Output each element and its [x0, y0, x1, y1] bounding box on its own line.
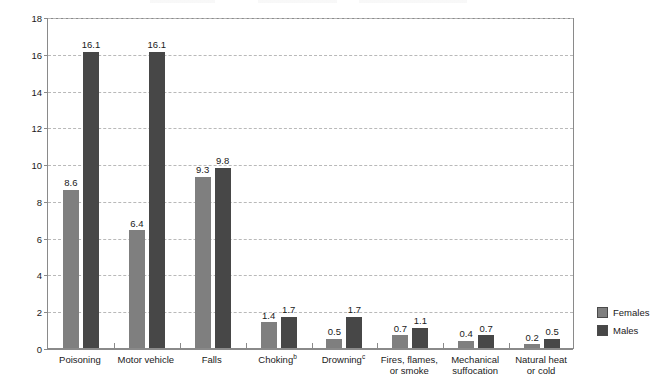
footnote-marker: c [362, 353, 365, 360]
bar-value-label: 0.5 [545, 327, 558, 337]
bar-value-label: 16.1 [148, 40, 167, 50]
legend-item-females[interactable]: Females [597, 303, 667, 321]
bar-males[interactable]: 1.7 [346, 317, 362, 348]
x-axis-label-line: Drowningc [311, 354, 377, 365]
bar-males[interactable]: 0.5 [544, 339, 560, 348]
y-tick-mark [44, 349, 48, 350]
legend-label: Females [613, 307, 649, 318]
bar-group: 0.40.7 [443, 19, 509, 348]
x-tick-mark [180, 343, 181, 348]
x-axis-label-line: Falls [179, 354, 245, 365]
bar-pair: 0.40.7 [443, 19, 509, 348]
bar-pair: 0.71.1 [377, 19, 443, 348]
bar-females[interactable]: 9.3 [195, 177, 211, 348]
bar-value-label: 16.1 [82, 40, 101, 50]
bar-group: 1.41.7 [246, 19, 312, 348]
y-tick-label: 10 [2, 161, 42, 171]
y-tick-label: 6 [2, 235, 42, 245]
x-tick-mark [246, 343, 247, 348]
x-axis-label-line: or smoke [376, 365, 442, 376]
x-tick-mark [443, 343, 444, 348]
bar-pair: 8.616.1 [48, 19, 114, 348]
y-tick-label: 12 [2, 125, 42, 135]
bar-value-label: 0.7 [394, 324, 407, 334]
bar-males[interactable]: 1.7 [281, 317, 297, 348]
bar-males[interactable]: 16.1 [149, 52, 165, 348]
bar-value-label: 1.1 [414, 316, 427, 326]
plot-area: 0246810121416188.616.16.416.19.39.81.41.… [47, 18, 574, 349]
bar-males[interactable]: 16.1 [83, 52, 99, 348]
y-tick-label: 14 [2, 88, 42, 98]
y-tick-label: 8 [2, 198, 42, 208]
bar-group: 0.71.1 [377, 19, 443, 348]
x-axis-label: Poisoning [47, 354, 113, 365]
bar-pair: 0.20.5 [509, 19, 575, 348]
bar-value-label: 1.7 [348, 305, 361, 315]
x-axis-label-line: suffocation [442, 365, 508, 376]
bar-males[interactable]: 0.7 [478, 335, 494, 348]
x-tick-mark [114, 343, 115, 348]
bar-value-label: 0.5 [328, 327, 341, 337]
bar-males[interactable]: 1.1 [412, 328, 428, 348]
bar-value-label: 0.7 [480, 324, 493, 334]
bar-value-label: 1.7 [282, 305, 295, 315]
bar-females[interactable]: 1.4 [261, 322, 277, 348]
y-tick-label: 18 [2, 14, 42, 24]
x-axis-label-line: Poisoning [47, 354, 113, 365]
bar-females[interactable]: 0.2 [524, 344, 540, 348]
y-tick-label: 2 [2, 308, 42, 318]
chart-legend: FemalesMales [597, 303, 667, 339]
bar-value-label: 0.2 [525, 333, 538, 343]
y-tick-label: 16 [2, 51, 42, 61]
x-tick-mark [509, 343, 510, 348]
x-tick-mark [312, 343, 313, 348]
legend-swatch-icon [597, 325, 608, 336]
bar-value-label: 1.4 [262, 311, 275, 321]
chart-figure: Deaths per 100,000 population 0246810121… [0, 0, 668, 387]
bar-females[interactable]: 0.5 [326, 339, 342, 348]
x-axis-label-line: Mechanical [442, 354, 508, 365]
x-axis-label: Mechanicalsuffocation [442, 354, 508, 376]
plot-inner: 0246810121416188.616.16.416.19.39.81.41.… [48, 19, 573, 348]
x-axis-label: Drowningc [311, 354, 377, 365]
x-axis-label: Motor vehicle [113, 354, 179, 365]
bar-pair: 9.39.8 [180, 19, 246, 348]
bar-pair: 6.416.1 [114, 19, 180, 348]
bar-females[interactable]: 8.6 [63, 190, 79, 348]
x-axis-label: Chokingb [245, 354, 311, 365]
x-axis-label: Falls [179, 354, 245, 365]
bar-females[interactable]: 6.4 [129, 230, 145, 348]
x-axis-label-line: Natural heat [508, 354, 574, 365]
bar-value-label: 6.4 [130, 219, 143, 229]
footnote-marker: b [293, 353, 297, 360]
bar-females[interactable]: 0.4 [458, 341, 474, 348]
bar-pair: 1.41.7 [246, 19, 312, 348]
y-tick-label: 4 [2, 272, 42, 282]
legend-swatch-icon [597, 307, 608, 318]
y-tick-label: 0 [2, 345, 42, 355]
bar-males[interactable]: 9.8 [215, 168, 231, 348]
x-tick-mark [377, 343, 378, 348]
bar-group: 8.616.1 [48, 19, 114, 348]
bar-value-label: 0.4 [460, 329, 473, 339]
bar-value-label: 8.6 [64, 178, 77, 188]
x-axis-label: Natural heator cold [508, 354, 574, 376]
x-axis-label-line: Fires, flames, [376, 354, 442, 365]
bar-pair: 0.51.7 [312, 19, 378, 348]
bar-group: 0.51.7 [312, 19, 378, 348]
x-axis-label-line: or cold [508, 365, 574, 376]
bar-value-label: 9.8 [216, 156, 229, 166]
bar-group: 0.20.5 [509, 19, 575, 348]
x-axis-label-line: Chokingb [245, 354, 311, 365]
legend-label: Males [613, 325, 638, 336]
bar-group: 9.39.8 [180, 19, 246, 348]
cropped-title-remnant [150, 0, 510, 3]
bar-value-label: 9.3 [196, 165, 209, 175]
gridline [48, 349, 573, 350]
bar-females[interactable]: 0.7 [392, 335, 408, 348]
legend-item-males[interactable]: Males [597, 321, 667, 339]
x-axis-label-line: Motor vehicle [113, 354, 179, 365]
x-axis-label: Fires, flames,or smoke [376, 354, 442, 376]
bar-group: 6.416.1 [114, 19, 180, 348]
